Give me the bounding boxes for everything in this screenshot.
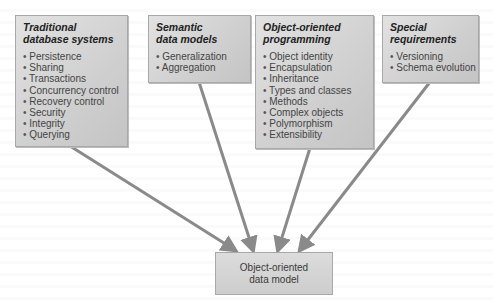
list-item: Generalization [156, 51, 244, 62]
list-item: Object identity [263, 51, 367, 62]
list-item: Polymorphism [263, 118, 367, 129]
list-item: Versioning [390, 51, 472, 62]
box-object-oriented-programming: Object-oriented programming Object ident… [255, 15, 374, 149]
list-item: Transactions [23, 73, 121, 84]
list-item: Integrity [23, 118, 121, 129]
box-special-requirements: Special requirements Versioning Schema e… [382, 15, 479, 83]
box-object-oriented-data-model: Object-oriented data model [215, 252, 333, 295]
list-item: Extensibility [263, 129, 367, 140]
box-title: Object-oriented programming [263, 21, 367, 45]
list-item: Aggregation [156, 62, 244, 73]
list-item: Recovery control [23, 96, 121, 107]
arrow-semantic-to-model [199, 82, 253, 250]
arrow-traditional-to-model [70, 146, 235, 250]
list-item: Persistence [23, 51, 121, 62]
list-item: Methods [263, 96, 367, 107]
list-item: Schema evolution [390, 62, 472, 73]
feature-list: Persistence Sharing Transactions Concurr… [23, 51, 121, 141]
box-title: Semantic data models [156, 21, 244, 45]
feature-list: Versioning Schema evolution [390, 51, 472, 73]
list-item: Complex objects [263, 107, 367, 118]
list-item: Sharing [23, 62, 121, 73]
box-traditional-database-systems: Traditional database systems Persistence… [15, 15, 128, 147]
list-item: Querying [23, 129, 121, 140]
arrow-oop-to-model [278, 148, 310, 250]
feature-list: Object identity Encapsulation Inheritanc… [263, 51, 367, 141]
target-label: Object-oriented data model [240, 262, 308, 286]
list-item: Security [23, 107, 121, 118]
list-item: Types and classes [263, 85, 367, 96]
list-item: Encapsulation [263, 62, 367, 73]
feature-list: Generalization Aggregation [156, 51, 244, 73]
box-title: Special requirements [390, 21, 472, 45]
list-item: Inheritance [263, 73, 367, 84]
box-semantic-data-models: Semantic data models Generalization Aggr… [148, 15, 251, 83]
box-title: Traditional database systems [23, 21, 121, 45]
list-item: Concurrency control [23, 85, 121, 96]
